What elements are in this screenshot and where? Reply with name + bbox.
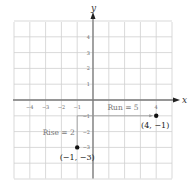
x-axis-arrow-icon xyxy=(173,98,180,103)
y-tick-label: 1 xyxy=(87,81,90,87)
x-tick-label: −4 xyxy=(26,104,33,110)
point-label-2: (4, −1) xyxy=(141,121,169,130)
y-tick-label: 2 xyxy=(87,65,90,71)
run-arrow-head-icon xyxy=(149,114,153,117)
x-tick-label: −3 xyxy=(42,104,49,110)
y-tick-label: 4 xyxy=(87,34,90,40)
y-tick-label: −2 xyxy=(83,129,90,135)
coordinate-plane: xy−4−3−2−144321−1−2−3Rise = 2Run = 5(−1,… xyxy=(0,0,188,185)
y-tick-label: 3 xyxy=(87,50,90,56)
y-axis-arrow-icon xyxy=(91,12,96,19)
y-axis-label: y xyxy=(90,3,97,13)
data-point xyxy=(154,114,158,118)
x-axis-label: x xyxy=(182,95,187,105)
x-tick-label: 4 xyxy=(155,104,158,110)
data-point xyxy=(75,145,79,149)
x-tick-label: −2 xyxy=(58,104,65,110)
run-label: Run = 5 xyxy=(107,103,138,112)
point-label-1: (−1, −3) xyxy=(60,153,95,162)
rise-label: Rise = 2 xyxy=(43,128,75,137)
x-tick-label: −1 xyxy=(74,104,81,110)
y-tick-label: −3 xyxy=(83,144,90,150)
